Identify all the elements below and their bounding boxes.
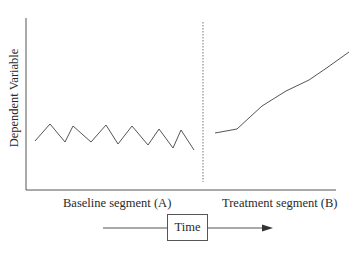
baseline-segment-label: Baseline segment (A) (63, 196, 171, 211)
treatment-segment-label: Treatment segment (B) (222, 196, 338, 211)
time-arrowhead-icon (262, 225, 273, 232)
y-axis-label: Dependent Variable (7, 49, 22, 148)
ab-design-diagram: Dependent Variable Baseline segment (A) … (0, 0, 360, 256)
time-label: Time (175, 220, 201, 235)
time-label-box: Time (167, 214, 208, 241)
baseline-data-line (35, 124, 194, 150)
treatment-data-line (215, 52, 349, 133)
